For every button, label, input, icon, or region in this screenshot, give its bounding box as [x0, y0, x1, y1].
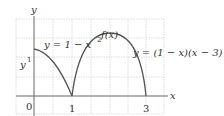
x-tick-1: 1	[69, 103, 75, 114]
curve1-label: y = 1 − x	[43, 39, 91, 50]
function-graph: y x 0 1 3 y 1 y = 1 − x 2 f(x) y = (1 − …	[0, 0, 224, 116]
origin-label: 0	[26, 101, 32, 112]
curve2-label: y = (1 − x)(x − 3)	[132, 47, 223, 58]
y-axis-label: y	[30, 4, 37, 15]
fx-label: f(x)	[100, 29, 118, 40]
y-one-label: y	[19, 59, 26, 70]
grid	[16, 19, 164, 114]
x-axis-label: x	[170, 90, 176, 101]
x-tick-3: 3	[143, 103, 149, 114]
y-one-sup: 1	[27, 56, 31, 64]
